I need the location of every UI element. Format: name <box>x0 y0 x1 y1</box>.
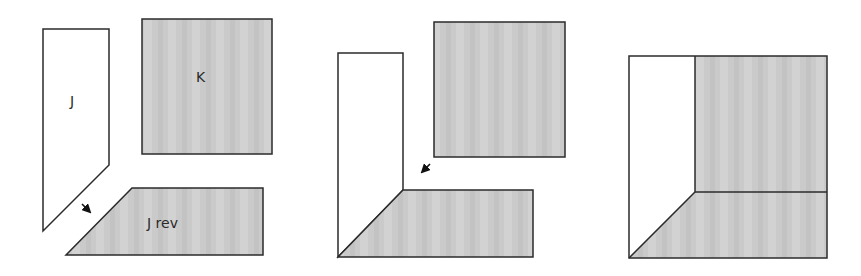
piece-k <box>434 22 565 157</box>
arrow-down-right-icon <box>82 204 88 210</box>
panel-step-2 <box>338 22 565 257</box>
piece-k <box>695 56 827 192</box>
arrow-down-left-icon <box>424 164 430 170</box>
panel-step-1: J K J rev <box>43 19 272 255</box>
piece-j <box>43 29 109 231</box>
assembly-diagram: J K J rev <box>0 0 861 276</box>
label-j-rev: J rev <box>146 215 178 231</box>
piece-k <box>142 19 272 154</box>
label-j: J <box>69 93 74 109</box>
label-k: K <box>196 69 206 85</box>
panel-step-3 <box>629 56 827 258</box>
